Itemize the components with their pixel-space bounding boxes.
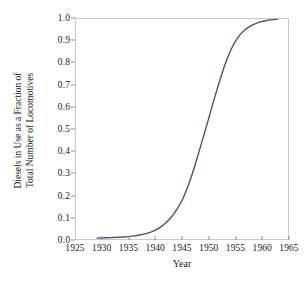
y-tick-mark: [71, 40, 75, 41]
x-tick-label: 1950: [199, 243, 218, 253]
x-tick-mark: [155, 236, 156, 240]
y-tick-label: 0.7: [58, 80, 70, 90]
y-tick-label: 0.1: [58, 213, 70, 223]
x-tick-mark: [101, 236, 102, 240]
y-tick-label: 0.9: [58, 35, 70, 45]
y-tick-mark: [71, 18, 75, 19]
x-tick-label: 1930: [92, 243, 111, 253]
y-tick-mark: [71, 217, 75, 218]
x-tick-label: 1960: [253, 243, 272, 253]
x-tick-mark: [289, 236, 290, 240]
x-tick-mark: [262, 236, 263, 240]
y-tick-label: 0.6: [58, 102, 70, 112]
y-tick-label: 0.5: [58, 124, 70, 134]
x-tick-mark: [182, 236, 183, 240]
y-tick-label: 0.2: [58, 191, 70, 201]
y-tick-mark: [71, 106, 75, 107]
x-tick-label: 1965: [279, 243, 298, 253]
y-tick-label: 0.8: [58, 57, 70, 67]
diesel-adoption-chart: Diesels in Use as a Fraction of Total Nu…: [0, 0, 304, 282]
x-axis-title: Year: [75, 258, 289, 269]
x-tick-mark: [235, 236, 236, 240]
y-axis-ticks: 0.00.10.20.30.40.50.60.70.80.91.0: [0, 0, 70, 282]
data-curve: [76, 19, 288, 239]
y-tick-mark: [71, 173, 75, 174]
x-tick-label: 1925: [65, 243, 84, 253]
x-tick-label: 1940: [146, 243, 165, 253]
x-tick-label: 1955: [226, 243, 245, 253]
plot-area: [75, 18, 289, 240]
y-tick-mark: [71, 151, 75, 152]
x-tick-label: 1935: [119, 243, 138, 253]
y-tick-label: 1.0: [58, 13, 70, 23]
x-tick-mark: [128, 236, 129, 240]
y-tick-mark: [71, 240, 75, 241]
y-tick-mark: [71, 195, 75, 196]
y-tick-mark: [71, 129, 75, 130]
x-tick-label: 1945: [172, 243, 191, 253]
y-tick-label: 0.3: [58, 168, 70, 178]
y-tick-label: 0.4: [58, 146, 70, 156]
y-tick-mark: [71, 84, 75, 85]
y-tick-mark: [71, 62, 75, 63]
x-tick-mark: [208, 236, 209, 240]
